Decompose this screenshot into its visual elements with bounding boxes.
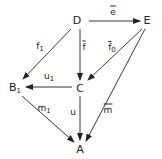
node-B1: B1 [9,82,21,97]
node-D: D [73,15,81,26]
edge-label-C-A: u [70,108,76,117]
arrow-B1-A [22,96,74,142]
edge-label-C-B1: u1 [44,72,54,84]
edge-label-E-C: f0 [108,43,116,55]
node-A: A [76,144,84,155]
edge-label-E-A: m [104,106,113,115]
edge-label-B1-A: m1 [37,104,50,116]
edge-label-D-B1: f1 [36,42,44,54]
node-E: E [144,15,151,26]
edge-label-D-C: f [82,43,85,52]
edge-label-D-E: e [110,8,116,17]
node-C: C [76,83,84,94]
